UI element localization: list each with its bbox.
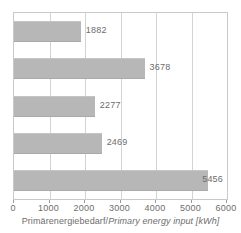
bar	[14, 170, 208, 191]
x-tick-label: 2000	[74, 203, 95, 213]
bar-value-label: 1882	[81, 25, 107, 35]
plot-area: 18823678227724695456	[13, 12, 228, 200]
bar-value-label: 2277	[95, 100, 121, 110]
bar-row: 1882	[14, 21, 227, 42]
bar-row: 2277	[14, 96, 227, 117]
bar	[14, 58, 145, 79]
x-tick-label: 6000	[216, 203, 237, 213]
x-tick-label: 4000	[145, 203, 166, 213]
x-tick-label: 3000	[109, 203, 130, 213]
x-axis-title-english: Primary energy input	[108, 216, 193, 226]
bar-row: 5456	[14, 170, 227, 191]
x-axis-unit: [kWh]	[196, 216, 220, 226]
x-axis-title: Primärenergiebedarf/Primary energy input…	[0, 216, 241, 226]
x-axis-title-german: Primärenergiebedarf	[22, 216, 106, 226]
bar-row: 2469	[14, 133, 227, 154]
bar	[14, 21, 81, 42]
x-axis: 0100020003000400050006000	[13, 200, 228, 214]
bar	[14, 133, 102, 154]
bar-value-label: 2469	[102, 137, 128, 147]
primary-energy-bar-chart: 18823678227724695456 0100020003000400050…	[0, 0, 241, 233]
bar-series: 18823678227724695456	[14, 13, 227, 199]
bar	[14, 96, 95, 117]
x-tick-label: 5000	[180, 203, 201, 213]
bar-value-label: 5456	[202, 174, 227, 184]
x-tick-label: 1000	[38, 203, 59, 213]
bar-row: 3678	[14, 58, 227, 79]
x-tick-label: 0	[10, 203, 15, 213]
bar-value-label: 3678	[145, 62, 171, 72]
